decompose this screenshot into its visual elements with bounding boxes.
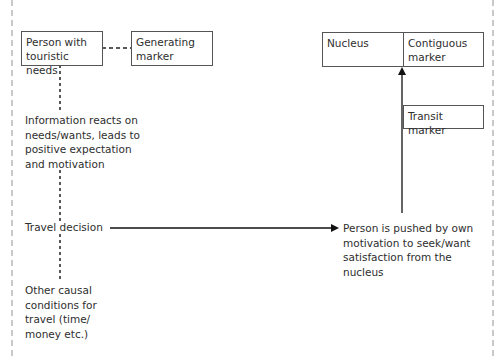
generating-marker-box: Generating marker xyxy=(131,31,213,66)
pushed-label: Person is pushed by own motivation to se… xyxy=(343,221,473,279)
information-label: Information reacts on needs/wants, leads… xyxy=(25,113,140,171)
contiguous-marker-box: Contiguous marker xyxy=(403,32,484,67)
nucleus-box: Nucleus xyxy=(322,32,404,67)
transit-marker-label: Transit marker xyxy=(408,110,445,136)
travel-decision-label: Travel decision xyxy=(25,220,103,235)
generating-marker-label: Generating marker xyxy=(136,36,195,62)
transit-marker-box: Transit marker xyxy=(403,105,484,129)
person-box: Person with touristic needs xyxy=(21,31,103,66)
nucleus-label: Nucleus xyxy=(327,37,369,49)
contiguous-marker-label: Contiguous marker xyxy=(408,37,467,63)
arrowhead-right-icon xyxy=(331,224,339,232)
other-conditions-label: Other causal conditions for travel (time… xyxy=(25,283,97,341)
arrowhead-up-icon xyxy=(398,67,406,75)
